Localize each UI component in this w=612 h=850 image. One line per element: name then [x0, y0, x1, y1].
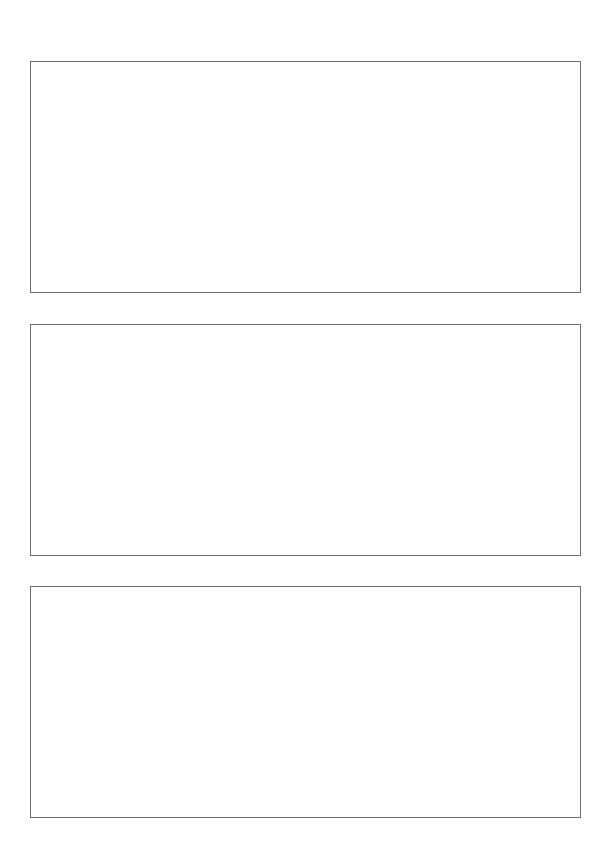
empty-frame-2 — [30, 324, 581, 556]
empty-frame-1 — [30, 61, 581, 293]
empty-frame-3 — [30, 586, 581, 818]
blank-page — [0, 0, 612, 850]
